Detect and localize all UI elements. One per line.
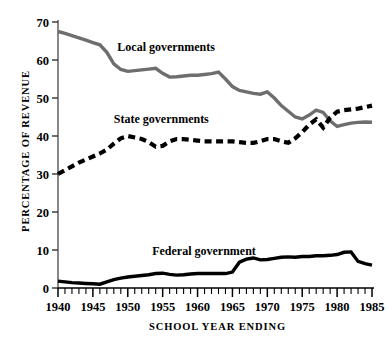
x-tick-label: 1955	[150, 300, 175, 314]
y-tick-label: 50	[37, 92, 50, 106]
x-tick-label: 1970	[255, 300, 280, 314]
y-tick-label: 70	[37, 16, 50, 30]
series-label-local-governments: Local governments	[117, 40, 215, 54]
y-axis-title-wrapper: PERCENTAGE OF REVENUE	[15, 31, 33, 271]
x-tick-label: 1985	[360, 300, 385, 314]
tick-labels: 0102030405060701940194519501955196019651…	[37, 16, 385, 315]
x-axis-title-wrapper: SCHOOL YEAR ENDING	[55, 316, 380, 334]
y-tick-label: 60	[37, 54, 50, 68]
x-tick-label: 1950	[115, 300, 140, 314]
x-tick-label: 1980	[325, 300, 350, 314]
line-chart-plot: 0102030405060701940194519501955196019651…	[0, 0, 388, 337]
x-tick-label: 1945	[80, 300, 105, 314]
y-tick-label: 0	[43, 282, 49, 296]
x-tick-label: 1965	[220, 300, 245, 314]
chart-container: 0102030405060701940194519501955196019651…	[0, 0, 388, 337]
series-annotations: Local governmentsState governmentsFedera…	[114, 40, 256, 259]
x-tick-label: 1940	[46, 300, 71, 314]
y-tick-label: 20	[37, 206, 50, 220]
series-line-local-governments	[58, 32, 372, 127]
y-tick-label: 30	[37, 168, 50, 182]
series-label-federal-government: Federal government	[152, 244, 256, 258]
x-tick-label: 1960	[185, 300, 210, 314]
series-label-state-governments: State governments	[114, 112, 209, 126]
x-axis-title: SCHOOL YEAR ENDING	[149, 321, 286, 332]
x-tick-label: 1975	[290, 300, 315, 314]
y-tick-label: 40	[37, 130, 50, 144]
y-axis-title: PERCENTAGE OF REVENUE	[20, 70, 31, 232]
y-tick-label: 10	[37, 244, 50, 258]
